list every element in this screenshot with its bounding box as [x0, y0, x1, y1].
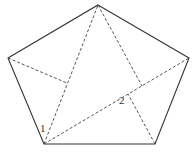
angle-label-1: 1	[40, 122, 46, 134]
angle-label-2: 2	[119, 94, 125, 106]
segment-top-to-diagonal	[98, 5, 142, 86]
segment-bottomright-to-diagonal	[128, 94, 155, 144]
diagonal-bottomleft-right	[44, 58, 189, 144]
diagonal-bottomleft-top	[44, 5, 98, 144]
pentagon-diagram: 1 2	[0, 0, 194, 153]
